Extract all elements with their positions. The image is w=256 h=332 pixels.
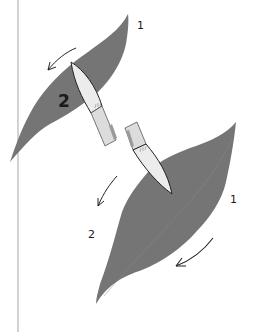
bottom-leaf xyxy=(96,122,236,304)
top-leaf-stroke-1-label: 1 xyxy=(137,20,144,31)
bottom-leaf-stroke-1-label: 1 xyxy=(230,194,237,205)
top-leaf-stroke-2-label: 2 xyxy=(58,93,70,110)
arrow-bottom-middle xyxy=(98,176,117,206)
leaf-brush-diagram xyxy=(0,0,256,332)
bottom-leaf-stroke-2-label: 2 xyxy=(88,229,95,240)
